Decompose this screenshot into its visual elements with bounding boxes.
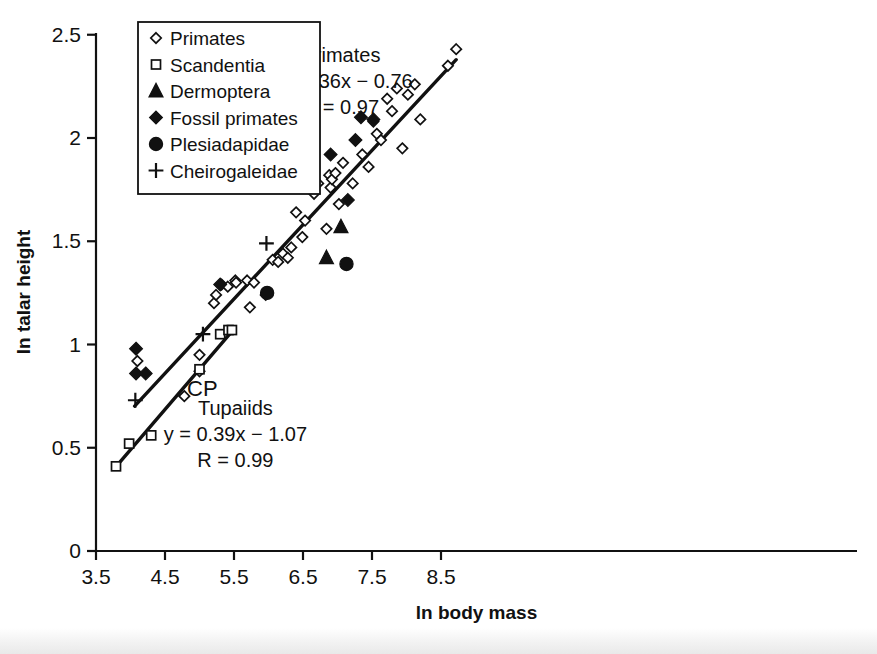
x-tick-label: 6.5 (288, 565, 317, 588)
legend-label: Scandentia (170, 55, 266, 76)
data-point (259, 236, 274, 251)
data-point (334, 219, 348, 233)
data-point (245, 302, 255, 312)
data-point (415, 114, 425, 124)
x-tick-label: 4.5 (150, 565, 179, 588)
data-point (321, 224, 331, 234)
x-tick-label: 3.5 (81, 565, 110, 588)
data-point (349, 134, 362, 147)
data-point (319, 250, 333, 264)
data-point (338, 158, 348, 168)
data-point (324, 148, 337, 161)
y-tick-label: 2.5 (52, 23, 81, 46)
data-point (382, 94, 392, 104)
data-point (291, 207, 301, 217)
cp-label: CP (187, 376, 218, 401)
x-axis-title: ln body mass (416, 602, 537, 623)
data-point (286, 242, 296, 252)
legend-label: Fossil primates (170, 108, 298, 129)
legend-marker-filled-circle (149, 137, 162, 150)
y-tick-label: 1.5 (52, 229, 81, 252)
y-axis-title: ln talar height (13, 229, 34, 354)
data-point (451, 44, 461, 54)
data-point (125, 439, 134, 448)
tupaiids-fit: y = 0.39x − 1.07 (164, 423, 307, 445)
y-tick-label: 2 (69, 126, 81, 149)
data-point (227, 326, 236, 335)
data-point (147, 431, 156, 440)
y-tick-label: 0.5 (52, 436, 81, 459)
data-point (130, 342, 143, 355)
data-point (139, 367, 152, 380)
data-point (347, 178, 357, 188)
data-point (363, 162, 373, 172)
legend-label: Primates (170, 28, 245, 49)
legend-label: Cheirogaleidae (170, 161, 298, 182)
scatter-plot: 00.511.522.53.54.55.56.57.58.5ln body ma… (0, 0, 877, 654)
legend-label: Dermoptera (170, 81, 271, 102)
legend: PrimatesScandentiaDermopteraFossil prima… (138, 22, 320, 194)
data-point (340, 257, 353, 270)
data-point (194, 350, 204, 360)
data-point (112, 462, 121, 471)
data-point (261, 286, 274, 299)
data-point (128, 393, 143, 408)
legend-label: Plesiadapidae (170, 134, 289, 155)
page-edge-shadow (0, 628, 877, 654)
legend-marker-open-square (152, 60, 161, 69)
data-point (443, 61, 453, 71)
data-point (397, 143, 407, 153)
x-tick-label: 5.5 (219, 565, 248, 588)
figure-container: 00.511.522.53.54.55.56.57.58.5ln body ma… (0, 0, 877, 654)
data-point (297, 232, 307, 242)
y-tick-label: 0 (69, 539, 81, 562)
data-point (132, 356, 142, 366)
y-tick-label: 1 (69, 333, 81, 356)
data-point (195, 365, 204, 374)
x-tick-label: 8.5 (426, 565, 455, 588)
tupaiids-fit: R = 0.99 (197, 449, 273, 471)
x-tick-label: 7.5 (357, 565, 386, 588)
data-point (387, 106, 397, 116)
